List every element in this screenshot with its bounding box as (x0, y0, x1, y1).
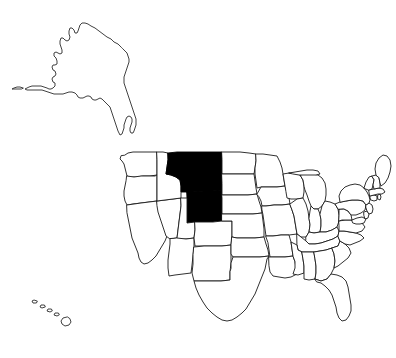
state-florida[interactable] (315, 274, 351, 321)
state-washington[interactable] (120, 152, 157, 177)
state-oklahoma[interactable] (231, 237, 269, 257)
state-louisiana[interactable] (269, 256, 297, 278)
hawaii-island-3 (47, 309, 52, 312)
state-indiana[interactable] (309, 206, 321, 233)
map-canvas (0, 0, 396, 358)
hawaii-big-island (61, 317, 71, 326)
state-maryland[interactable] (352, 217, 366, 224)
hawaii-island-2 (40, 305, 45, 308)
state-oregon[interactable] (124, 175, 157, 205)
state-alaska[interactable] (25, 23, 136, 135)
state-north-dakota[interactable] (222, 152, 256, 174)
state-arizona[interactable] (168, 238, 194, 276)
state-hawaii[interactable] (32, 300, 37, 303)
state-new-mexico[interactable] (192, 245, 231, 281)
state-michigan-upper-peninsula (289, 170, 320, 175)
alaska-inset (12, 23, 136, 135)
state-south-dakota[interactable] (222, 174, 257, 195)
hawaii-inset (32, 300, 71, 326)
us-states-locator-map (0, 0, 396, 358)
state-alabama[interactable] (302, 252, 316, 280)
state-rhode-island[interactable] (378, 194, 381, 200)
state-arkansas[interactable] (266, 235, 293, 257)
state-nebraska[interactable] (222, 194, 262, 214)
alaska-aleutian-islands (12, 87, 23, 89)
hawaii-island-4 (54, 313, 59, 316)
state-wyoming-highlighted[interactable] (187, 190, 222, 223)
state-colorado[interactable] (194, 221, 232, 246)
state-minnesota[interactable] (255, 154, 285, 188)
state-vermont[interactable] (364, 176, 374, 190)
